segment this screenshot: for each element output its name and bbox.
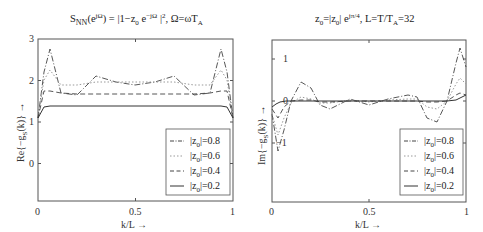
left-curves bbox=[38, 49, 233, 118]
left-xtick-05: 0.5 bbox=[129, 206, 142, 217]
right-series-02 bbox=[272, 95, 466, 107]
left-ytick-2: 2 bbox=[29, 75, 34, 86]
figure: SNN(ejΩ) = |1−z0 e−jΩ |2, Ω=ωTA 3 2 1 0 … bbox=[0, 0, 483, 232]
left-xtick-1: 1 bbox=[230, 206, 235, 217]
left-ylabel: Re{−gS(k)} → bbox=[15, 103, 29, 162]
left-plot: SNN(ejΩ) = |1−z0 e−jΩ |2, Ω=ωTA 3 2 1 0 … bbox=[15, 12, 235, 230]
right-xlabel: k/L → bbox=[355, 219, 381, 230]
left-title: SNN(ejΩ) = |1−z0 e−jΩ |2, Ω=ωTA bbox=[70, 12, 203, 27]
right-legend: |z0|=0.8 |z0|=0.6 |z0|=0.4 |z0|=0.2 bbox=[400, 129, 463, 195]
right-ytick-m1: −1 bbox=[276, 137, 287, 148]
right-xtick-0: 0 bbox=[269, 206, 274, 217]
left-xtick-0: 0 bbox=[35, 206, 40, 217]
right-xtick-1: 1 bbox=[464, 206, 469, 217]
left-legend: |z0|=0.8 |z0|=0.6 |z0|=0.4 |z0|=0.2 bbox=[166, 129, 230, 195]
left-ytick-3: 3 bbox=[29, 33, 34, 44]
left-series-08 bbox=[38, 49, 233, 118]
right-title: z0=|z0| ejπ/4, L=T/TA=32 bbox=[315, 12, 415, 27]
left-ytick-0: 0 bbox=[29, 158, 34, 169]
left-series-04 bbox=[38, 91, 233, 118]
right-xtick-05: 0.5 bbox=[363, 206, 376, 217]
left-ytick-1: 1 bbox=[29, 116, 34, 127]
right-series-04 bbox=[272, 93, 466, 118]
right-ytick-1: 1 bbox=[283, 53, 288, 64]
right-plot: z0=|z0| ejπ/4, L=T/TA=32 1 0 −1 0 0.5 1 … bbox=[256, 12, 469, 230]
left-series-02 bbox=[38, 106, 233, 118]
left-xlabel: k/L → bbox=[121, 219, 147, 230]
right-ylabel: Im{−gS(k)} → bbox=[256, 106, 270, 165]
right-series-06 bbox=[272, 78, 466, 135]
